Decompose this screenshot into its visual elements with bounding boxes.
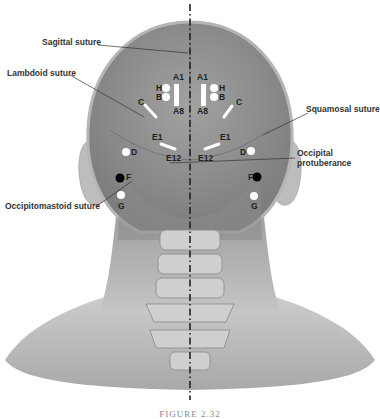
- point-label-d-right: D: [240, 148, 246, 157]
- point-label-a8-left: A8: [173, 107, 184, 116]
- label-occipital: Occipital: [297, 148, 333, 158]
- label-lambdoid-suture: Lambdoid suture: [7, 68, 76, 78]
- d-point-left: [122, 148, 130, 156]
- g-point-right: [250, 192, 258, 200]
- point-label-a8-right: A8: [197, 107, 208, 116]
- label-protuberance: protuberance: [297, 158, 351, 168]
- f-point-right: [253, 173, 262, 182]
- point-label-b-left: B: [156, 93, 162, 102]
- a-line-left: [174, 84, 179, 106]
- point-label-g-left: G: [118, 202, 125, 211]
- b-point-left: [162, 93, 170, 101]
- f-point-left: [116, 174, 125, 183]
- g-point-left: [117, 191, 125, 199]
- label-occipitomastoid-suture: Occipitomastoid suture: [5, 201, 100, 211]
- b-point-right: [210, 93, 218, 101]
- point-label-a1-right: A1: [197, 73, 208, 82]
- point-label-d-left: D: [131, 148, 137, 157]
- point-label-c-left: C: [138, 98, 144, 107]
- point-label-f-left: F: [126, 173, 131, 182]
- point-label-g-right: G: [251, 202, 258, 211]
- point-label-e1-right: E1: [220, 133, 230, 142]
- label-sagittal-suture: Sagittal suture: [42, 37, 101, 47]
- point-label-e12-left: E12: [166, 154, 181, 163]
- point-label-e1-left: E1: [152, 133, 162, 142]
- point-label-e12-right: E12: [198, 154, 213, 163]
- d-point-right: [247, 147, 255, 155]
- point-label-f-right: F: [248, 173, 253, 182]
- label-squamosal-suture: Squamosal suture: [306, 104, 380, 114]
- h-point-right: [210, 84, 218, 92]
- point-label-a1-left: A1: [173, 73, 184, 82]
- point-label-b-right: B: [219, 93, 225, 102]
- point-label-c-right: C: [236, 98, 242, 107]
- figure-caption: FIGURE 2.32: [0, 409, 380, 419]
- a-line-right: [201, 84, 206, 106]
- h-point-left: [162, 84, 170, 92]
